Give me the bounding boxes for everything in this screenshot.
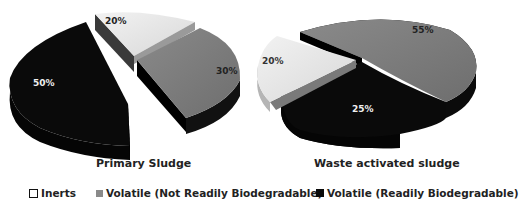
legend-swatch-volatile-rb <box>316 189 324 197</box>
label-volatile-nrb-was: 55% <box>412 25 434 35</box>
label-inerts-primary: 20% <box>105 16 127 26</box>
legend-item-inerts: Inerts <box>29 187 76 199</box>
label-volatile-rb-primary: 50% <box>33 78 55 88</box>
pie-waste-activated-sludge: 20% 55% 25% <box>257 19 476 148</box>
label-inerts-was: 20% <box>262 56 284 66</box>
label-volatile-nrb-primary: 30% <box>216 66 238 76</box>
legend-label-volatile-nrb: Volatile (Not Readily Biodegradable) <box>106 187 322 199</box>
chart-title-primary-sludge: Primary Sludge <box>96 157 191 170</box>
legend-item-volatile-nrb: Volatile (Not Readily Biodegradable) <box>96 187 322 199</box>
legend-swatch-volatile-nrb <box>96 190 103 197</box>
label-volatile-rb-was: 25% <box>352 104 374 114</box>
legend-label-volatile-rb: Volatile (Readily Biodegradable) <box>327 187 519 199</box>
legend-label-inerts: Inerts <box>41 187 76 199</box>
pie-primary-sludge: 20% 30% 50% <box>10 12 241 160</box>
legend-item-volatile-rb: Volatile (Readily Biodegradable) <box>316 187 519 199</box>
legend-swatch-inerts <box>29 189 38 198</box>
chart-title-waste-activated-sludge: Waste activated sludge <box>314 157 460 170</box>
